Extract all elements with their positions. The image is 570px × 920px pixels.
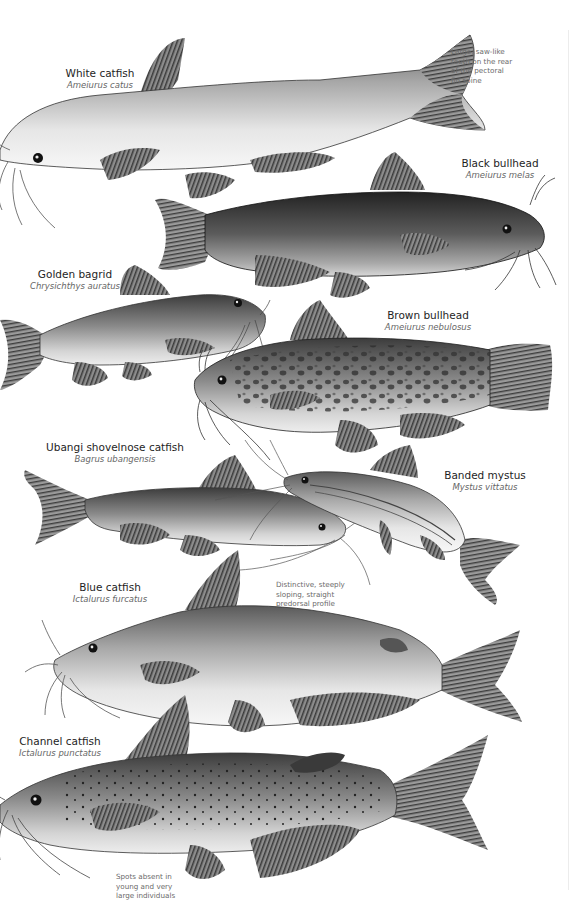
note-white-catfish-teeth: Large, saw-like teeth on the rear of the… <box>451 47 512 86</box>
common-name: White catfish <box>30 67 170 80</box>
common-name: Blue catfish <box>60 581 160 594</box>
scientific-name: Ictalurus punctatus <box>5 748 115 759</box>
scientific-name: Ameiurus melas <box>440 170 560 181</box>
scientific-name: Ictalurus furcatus <box>60 594 160 605</box>
banded-mystus-illustration <box>215 440 520 605</box>
label-blue-catfish: Blue catfish Ictalurus furcatus <box>60 581 160 605</box>
scientific-name: Chrysichthys auratus <box>10 281 140 292</box>
scientific-name: Ameiurus nebulosus <box>368 322 488 333</box>
label-channel-catfish: Channel catfish Ictalurus punctatus <box>5 735 115 759</box>
scientific-name: Mystus vittatus <box>425 482 545 493</box>
note-channel-catfish-spots: Spots absent in young and very large ind… <box>116 872 175 901</box>
label-ubangi-shovelnose-catfish: Ubangi shovelnose catfish Bagrus ubangen… <box>30 441 200 465</box>
common-name: Brown bullhead <box>368 309 488 322</box>
common-name: Channel catfish <box>5 735 115 748</box>
common-name: Ubangi shovelnose catfish <box>30 441 200 454</box>
note-blue-catfish-profile: Distinctive, steeply sloping, straight p… <box>276 580 345 609</box>
label-black-bullhead: Black bullhead Ameiurus melas <box>440 157 560 181</box>
label-banded-mystus: Banded mystus Mystus vittatus <box>425 469 545 493</box>
label-brown-bullhead: Brown bullhead Ameiurus nebulosus <box>368 309 488 333</box>
scientific-name: Bagrus ubangensis <box>30 454 200 465</box>
common-name: Golden bagrid <box>10 268 140 281</box>
common-name: Banded mystus <box>425 469 545 482</box>
common-name: Black bullhead <box>440 157 560 170</box>
label-golden-bagrid: Golden bagrid Chrysichthys auratus <box>10 268 140 292</box>
scientific-name: Ameiurus catus <box>30 80 170 91</box>
blue-catfish-illustration <box>25 550 522 732</box>
label-white-catfish: White catfish Ameiurus catus <box>30 67 170 91</box>
